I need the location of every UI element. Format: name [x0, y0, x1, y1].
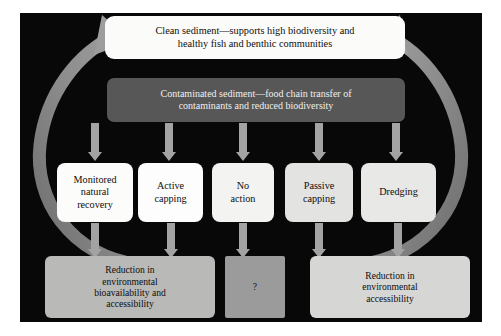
- outcome-label-line: environmental: [102, 276, 157, 287]
- connector-arrow-to-no-action: [234, 123, 252, 161]
- connector-arrow-dredging-to-accessibility: [389, 223, 407, 258]
- connector-arrow-monitored-to-bioavailability: [86, 223, 104, 258]
- contaminated-sediment-line-1: Contaminated sediment—food chain transfe…: [160, 88, 351, 100]
- connector-arrow-to-dredging: [387, 123, 405, 161]
- connector-arrow-passive-capping-to-accessibility: [310, 223, 328, 258]
- option-label-line: capping: [154, 193, 186, 205]
- option-label-line: Dredging: [379, 186, 417, 198]
- connector-arrow-to-passive-capping: [310, 123, 328, 161]
- option-box-passive-capping: Passive capping: [285, 163, 353, 222]
- diagram-figure: Clean sediment—supports high biodiversit…: [0, 0, 501, 336]
- outcome-label-line: bioavailability and: [94, 287, 166, 298]
- outcome-label-line: Reduction in: [105, 264, 154, 275]
- diagram-canvas: Clean sediment—supports high biodiversit…: [20, 13, 482, 322]
- option-box-active-capping: Active capping: [138, 163, 203, 222]
- option-box-monitored-natural-recovery: Monitored natural recovery: [57, 163, 133, 222]
- outcome-label-line: Reduction in: [365, 270, 414, 281]
- outcome-box-unknown: ?: [225, 256, 285, 318]
- outcome-label-line: accessibility: [366, 293, 413, 304]
- connector-arrow-to-monitored-natural-recovery: [86, 123, 104, 161]
- outcome-label-line: accessibility: [106, 298, 153, 309]
- connector-arrow-active-capping-to-bioavailability: [162, 223, 180, 258]
- option-label-line: Passive: [304, 180, 335, 192]
- connector-arrow-to-active-capping: [160, 123, 178, 161]
- option-label-line: Monitored: [73, 174, 116, 186]
- option-box-no-action: No action: [212, 163, 274, 222]
- option-label-line: action: [231, 193, 256, 205]
- outcome-label-line: environmental: [362, 281, 417, 292]
- option-label-line: recovery: [77, 199, 113, 211]
- clean-sediment-line-1: Clean sediment—supports high biodiversit…: [155, 25, 354, 37]
- option-label-line: capping: [303, 193, 335, 205]
- outcome-box-reduction-bioavailability: Reduction in environmental bioavailabili…: [45, 256, 215, 318]
- outcome-box-reduction-accessibility: Reduction in environmental accessibility: [310, 256, 470, 318]
- option-label-line: natural: [81, 186, 109, 198]
- contaminated-sediment-box: Contaminated sediment—food chain transfe…: [107, 78, 405, 122]
- clean-sediment-box: Clean sediment—supports high biodiversit…: [105, 16, 405, 59]
- option-label-line: No: [237, 180, 249, 192]
- connector-arrow-no-action-to-unknown: [234, 223, 252, 258]
- contaminated-sediment-line-2: contaminants and reduced biodiversity: [179, 100, 334, 112]
- option-label-line: Active: [157, 180, 184, 192]
- option-box-dredging: Dredging: [361, 163, 436, 222]
- outcome-label-line: ?: [253, 281, 257, 292]
- clean-sediment-line-2: healthy fish and benthic communities: [178, 38, 332, 50]
